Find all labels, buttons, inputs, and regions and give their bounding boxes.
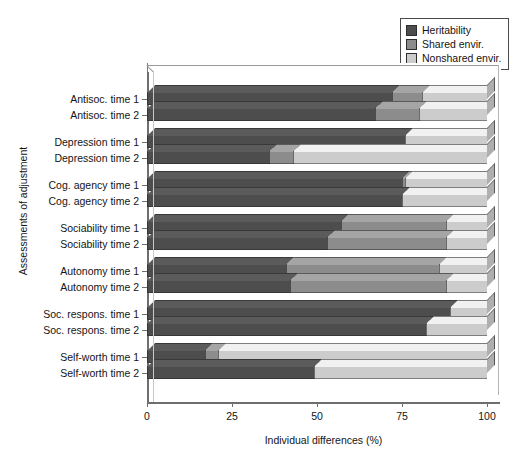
bar-segment-top-face bbox=[147, 171, 410, 179]
bar-row bbox=[147, 280, 500, 293]
bar-segment bbox=[147, 280, 290, 293]
bar-segment bbox=[147, 151, 269, 164]
x-axis-tick bbox=[147, 402, 148, 407]
x-axis-tick bbox=[402, 402, 403, 407]
legend-label-shared-envir: Shared envir. bbox=[422, 39, 484, 50]
y-axis-tick bbox=[142, 287, 147, 288]
bar-segment-top-face bbox=[147, 214, 349, 222]
bar-segment-divider bbox=[290, 280, 291, 293]
bar-segment bbox=[446, 280, 487, 293]
bar-row bbox=[147, 194, 500, 207]
bar-segment-top-face bbox=[147, 359, 322, 367]
y-axis-tick bbox=[142, 115, 147, 116]
bar-segment-top-face bbox=[286, 257, 447, 265]
y-axis-tick bbox=[142, 158, 147, 159]
legend-item: Shared envir. bbox=[406, 37, 501, 51]
bar-row bbox=[147, 108, 500, 121]
bar-segment-divider bbox=[293, 151, 294, 164]
y-axis-tick-label: Cog. agency time 2 bbox=[49, 195, 139, 207]
y-axis-tick bbox=[142, 201, 147, 202]
y-axis-tick-label: Autonomy time 2 bbox=[60, 281, 139, 293]
y-axis-tick-label: Sociability time 2 bbox=[60, 238, 139, 250]
y-axis-tick-label: Autonomy time 1 bbox=[60, 265, 139, 277]
bar-segment-top-face bbox=[419, 101, 495, 109]
legend-swatch-shared-envir bbox=[406, 39, 417, 50]
bar-segment-top-face bbox=[290, 273, 455, 281]
bar-segment-top-face bbox=[147, 273, 298, 281]
y-axis-tick bbox=[142, 142, 147, 143]
bar-segment-top-face bbox=[147, 101, 383, 109]
bar-segment bbox=[446, 237, 487, 250]
y-axis-tick-label: Self-worth time 2 bbox=[60, 367, 139, 379]
y-axis-tick bbox=[142, 185, 147, 186]
y-axis-tick bbox=[142, 244, 147, 245]
bar-segment bbox=[426, 323, 487, 336]
y-axis-tick bbox=[142, 373, 147, 374]
bar-segment-top-face bbox=[405, 128, 495, 136]
bar-row bbox=[147, 151, 500, 164]
x-axis-tick-label: 25 bbox=[226, 410, 238, 422]
x-axis-line bbox=[147, 402, 500, 404]
bar-segment-divider bbox=[446, 237, 447, 250]
y-axis-tick-label: Antisoc. time 1 bbox=[70, 93, 139, 105]
bar-segment-top-face bbox=[147, 85, 400, 93]
x-axis-tick-label: 100 bbox=[478, 410, 496, 422]
x-axis-tick-label: 0 bbox=[144, 410, 150, 422]
y-axis-tick bbox=[142, 99, 147, 100]
y-axis-tick-label: Depression time 1 bbox=[54, 136, 139, 148]
x-axis-tick bbox=[232, 402, 233, 407]
plot-3d-edge bbox=[147, 65, 499, 66]
x-axis-tick-label: 50 bbox=[311, 410, 323, 422]
bar-segment-top-face bbox=[426, 316, 495, 324]
legend-swatch-nonshared-envir bbox=[406, 53, 417, 64]
bar-segment bbox=[147, 194, 402, 207]
bar-segment bbox=[402, 194, 487, 207]
legend-label-heritability: Heritability bbox=[422, 25, 471, 36]
legend-label-nonshared-envir: Nonshared envir. bbox=[422, 53, 501, 64]
bar-segment-divider bbox=[314, 366, 315, 379]
y-axis-tick-label: Sociability time 1 bbox=[60, 222, 139, 234]
bar-segment-top-face bbox=[293, 144, 495, 152]
bar-segment-divider bbox=[446, 280, 447, 293]
y-axis-tick bbox=[142, 228, 147, 229]
y-axis-tick-label: Soc. respons. time 1 bbox=[43, 308, 139, 320]
bar-segment bbox=[147, 323, 426, 336]
bar-segment-top-face bbox=[147, 300, 458, 308]
y-axis-title: Assessments of adjustment bbox=[17, 111, 29, 311]
bar-segment bbox=[293, 151, 487, 164]
bar-segment bbox=[147, 108, 375, 121]
bar-segment-top-face bbox=[147, 187, 410, 195]
bar-segment bbox=[147, 366, 314, 379]
legend-item: Heritability bbox=[406, 23, 501, 37]
bar-row bbox=[147, 323, 500, 336]
bar-segment-divider bbox=[426, 323, 427, 336]
plot-3d-edge bbox=[153, 72, 154, 402]
bar-segment-top-face bbox=[147, 316, 434, 324]
bar-segment bbox=[269, 151, 293, 164]
y-axis-tick-label: Soc. respons. time 2 bbox=[43, 324, 139, 336]
bar-segment-divider bbox=[419, 108, 420, 121]
bar-row bbox=[147, 237, 500, 250]
bar-segment-top-face bbox=[147, 230, 335, 238]
bar-segment bbox=[314, 366, 487, 379]
bar-segment-top-face bbox=[314, 359, 496, 367]
bar-segment bbox=[419, 108, 487, 121]
bar-row bbox=[147, 366, 500, 379]
legend-swatch-heritability bbox=[406, 25, 417, 36]
bar-segment-top-face bbox=[402, 187, 495, 195]
bar-segment-top-face bbox=[422, 85, 495, 93]
bar-segment-top-face bbox=[147, 128, 414, 136]
bar-segment bbox=[290, 280, 446, 293]
y-axis-tick-label: Self-worth time 1 bbox=[60, 351, 139, 363]
x-axis-tick bbox=[487, 402, 488, 407]
bar-segment-top-face bbox=[218, 343, 495, 351]
x-axis-tick-label: 75 bbox=[396, 410, 408, 422]
bar-segment bbox=[375, 108, 419, 121]
plot-3d-edge bbox=[498, 65, 499, 395]
bar-segment bbox=[327, 237, 446, 250]
bar-segment-divider bbox=[327, 237, 328, 250]
bar-segment-divider bbox=[402, 194, 403, 207]
y-axis-tick-label: Depression time 2 bbox=[54, 152, 139, 164]
y-axis-tick-label: Cog. agency time 1 bbox=[49, 179, 139, 191]
y-axis-tick bbox=[142, 330, 147, 331]
